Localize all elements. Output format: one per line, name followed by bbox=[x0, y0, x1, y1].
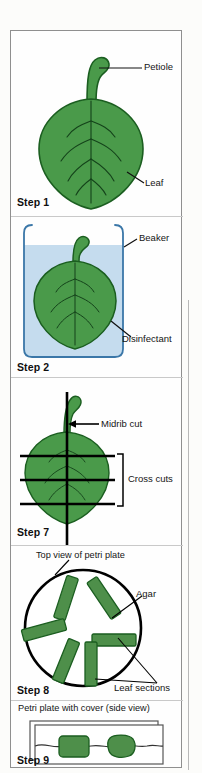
panel-step2: Beaker Disinfectant Step 2 bbox=[11, 217, 183, 377]
step-label-8: Step 8 bbox=[17, 684, 49, 696]
panel-step9: Petri plate with cover (side view) Step … bbox=[11, 701, 183, 769]
callout-leaf: Leaf bbox=[145, 177, 164, 188]
caption-petri-plate-side-view: Petri plate with cover (side view) bbox=[18, 703, 150, 713]
callout-cross-cuts: Cross cuts bbox=[128, 473, 173, 484]
step-label-1: Step 1 bbox=[17, 196, 49, 208]
margin-rule bbox=[188, 300, 189, 770]
cross-cuts-bracket bbox=[117, 454, 123, 506]
callout-beaker: Beaker bbox=[139, 232, 169, 243]
panel-step7: Midrib cut Cross cuts Step 7 bbox=[11, 378, 183, 545]
step1-illustration bbox=[11, 31, 183, 216]
leaf-section-side bbox=[59, 736, 89, 757]
callout-disinfectant: Disinfectant bbox=[122, 333, 172, 344]
step-label-7: Step 7 bbox=[17, 526, 49, 538]
petiole-shape bbox=[87, 57, 109, 103]
petri-plate-rect bbox=[35, 725, 163, 764]
step7-illustration bbox=[11, 378, 183, 545]
step-label-9: Step 9 bbox=[17, 754, 49, 766]
figure-page: Petiole Leaf Step 1 bbox=[0, 0, 202, 773]
step-label-2: Step 2 bbox=[17, 361, 49, 373]
callout-agar: Agar bbox=[136, 588, 156, 599]
leaf-section bbox=[92, 634, 136, 646]
callout-petiole: Petiole bbox=[144, 61, 173, 72]
leaf-section-side bbox=[108, 735, 135, 757]
figure-frame: Petiole Leaf Step 1 bbox=[10, 30, 182, 768]
beaker-leader-line bbox=[124, 239, 137, 247]
panel-step1: Petiole Leaf Step 1 bbox=[11, 31, 183, 216]
callout-leaf-sections: Leaf sections bbox=[114, 682, 170, 693]
callout-midrib-cut: Midrib cut bbox=[101, 418, 142, 429]
panel-step8: Top view of petri plate bbox=[11, 546, 183, 700]
step8-illustration bbox=[11, 546, 183, 700]
